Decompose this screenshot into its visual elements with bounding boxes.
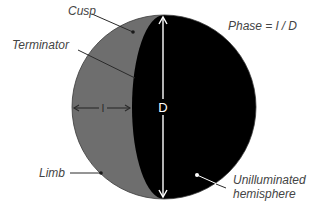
diameter-label: D: [158, 100, 167, 115]
illuminated-width-label: l: [102, 102, 104, 114]
cusp-label: Cusp: [68, 4, 96, 18]
unilluminated-region: [132, 15, 256, 199]
unilluminated-label-line1: Unilluminated: [233, 173, 306, 187]
limb-label: Limb: [39, 166, 65, 180]
phase-formula: Phase = l / D: [228, 19, 297, 33]
terminator-label: Terminator: [12, 38, 70, 52]
phase-diagram: D l Cusp Terminator Limb Unilluminated h…: [0, 0, 324, 215]
unilluminated-label-line2: hemisphere: [233, 187, 296, 201]
limb-pointer: [70, 171, 103, 175]
